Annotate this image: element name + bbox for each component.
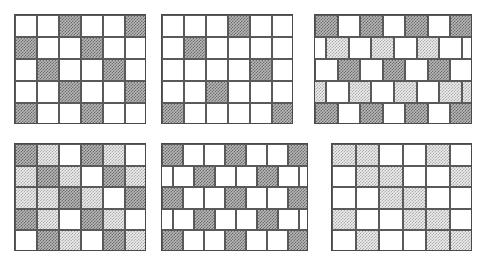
grid-cell <box>405 59 428 81</box>
grid-cell <box>15 59 37 81</box>
panel-top-right <box>314 14 472 124</box>
grid-cell <box>272 15 293 37</box>
grid-cell <box>349 81 372 103</box>
grid-row <box>314 81 472 103</box>
grid-cell <box>15 15 37 37</box>
grid-row <box>162 15 293 37</box>
grid-cell <box>228 37 250 59</box>
grid-row <box>332 187 472 209</box>
grid-cell <box>462 37 472 59</box>
grid-cell <box>125 209 146 231</box>
grid-row <box>314 37 472 59</box>
grid-cell <box>315 59 338 81</box>
grid-cell <box>15 187 37 209</box>
grid-cell <box>360 103 383 124</box>
grid-row <box>15 15 146 37</box>
grid-row <box>15 144 146 166</box>
grid-cell <box>439 81 462 103</box>
grid-cell <box>37 166 59 188</box>
grid-cell <box>426 144 450 166</box>
grid-cell <box>426 209 450 231</box>
grid-cell <box>204 144 225 166</box>
grid-cell <box>257 209 278 231</box>
grid-cell <box>15 230 37 251</box>
grid-cell <box>173 209 194 231</box>
grid-cell <box>162 230 183 251</box>
grid-cell <box>403 187 427 209</box>
grid-cell <box>450 166 473 188</box>
grid-cell <box>103 187 125 209</box>
grid-cell <box>383 15 406 37</box>
grid-cell <box>194 166 215 188</box>
grid-cell <box>288 144 308 166</box>
grid-row <box>332 166 472 188</box>
grid-cell <box>37 15 59 37</box>
grid-cell <box>332 187 356 209</box>
grid-cell <box>332 230 356 251</box>
grid-cell <box>162 81 184 103</box>
grid-cell <box>37 59 59 81</box>
grid-cell <box>356 230 380 251</box>
grid-row <box>15 59 146 81</box>
grid-cell <box>59 103 81 124</box>
grid-cell <box>81 166 103 188</box>
grid-cell <box>162 187 183 209</box>
grid-cell <box>103 81 125 103</box>
grid-cell <box>288 230 308 251</box>
grid-cell <box>272 103 293 124</box>
grid-row <box>315 15 472 37</box>
grid-cell <box>417 81 440 103</box>
grid-cell <box>267 187 288 209</box>
grid-cell <box>356 166 380 188</box>
grid-cell <box>15 209 37 231</box>
grid-cell <box>299 166 309 188</box>
grid-cell <box>272 37 293 59</box>
grid-cell <box>59 37 81 59</box>
grid-cell <box>184 103 206 124</box>
grid-cell <box>403 230 427 251</box>
grid-cell <box>103 15 125 37</box>
grid-cell <box>59 230 81 251</box>
grid-cell <box>450 15 472 37</box>
grid-cell <box>81 187 103 209</box>
grid-row <box>162 103 293 124</box>
grid-cell <box>450 187 473 209</box>
grid-cell <box>439 37 462 59</box>
grid-cell <box>37 230 59 251</box>
grid-cell <box>299 209 309 231</box>
grid-cell <box>183 144 204 166</box>
grid-cell <box>125 230 146 251</box>
grid-cell <box>59 209 81 231</box>
grid-cell <box>450 103 472 124</box>
grid-cell <box>59 81 81 103</box>
grid-cell <box>450 59 472 81</box>
grid-cell <box>59 59 81 81</box>
grid-cell <box>250 81 272 103</box>
panel-bottom-right <box>331 143 472 251</box>
grid-row <box>162 81 293 103</box>
grid-cell <box>338 59 361 81</box>
grid-row <box>332 230 472 251</box>
grid-cell <box>162 37 184 59</box>
grid-cell <box>161 166 173 188</box>
grid-cell <box>250 59 272 81</box>
grid-cell <box>162 144 183 166</box>
grid-cell <box>103 209 125 231</box>
grid-cell <box>379 166 403 188</box>
grid-row <box>15 81 146 103</box>
grid-cell <box>204 187 225 209</box>
grid-cell <box>37 209 59 231</box>
grid-cell <box>206 37 228 59</box>
grid-cell <box>403 166 427 188</box>
grid-cell <box>326 81 349 103</box>
grid-cell <box>37 187 59 209</box>
grid-cell <box>206 81 228 103</box>
panel-bottom-center <box>161 143 308 251</box>
grid-cell <box>426 166 450 188</box>
grid-cell <box>417 37 440 59</box>
grid-cell <box>403 144 427 166</box>
grid-cell <box>184 37 206 59</box>
grid-cell <box>356 187 380 209</box>
grid-cell <box>37 144 59 166</box>
grid-cell <box>37 37 59 59</box>
